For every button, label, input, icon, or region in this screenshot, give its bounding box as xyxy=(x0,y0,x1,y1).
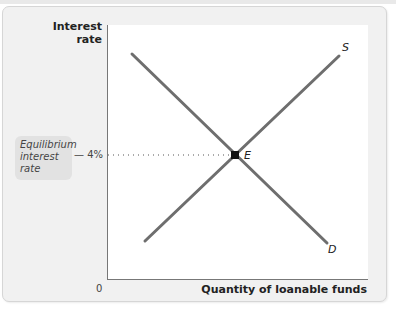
point-E-label: E xyxy=(244,149,251,162)
demand-curve-label: D xyxy=(328,243,336,256)
demand-curve xyxy=(132,54,327,243)
supply-curve xyxy=(145,56,339,241)
x-axis-label: Quantity of loanable funds xyxy=(201,283,367,296)
origin-label: 0 xyxy=(96,283,102,294)
supply-curve-label: S xyxy=(342,41,349,54)
chart-lines xyxy=(0,0,396,314)
equilibrium-point xyxy=(231,151,239,159)
